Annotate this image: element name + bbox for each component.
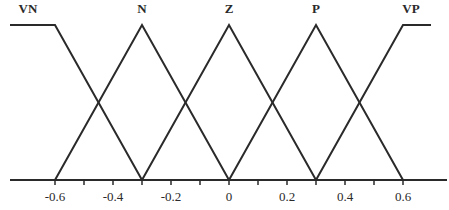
x-tick-label: 0.2 bbox=[279, 189, 295, 204]
x-tick-label: -0.6 bbox=[45, 189, 66, 204]
x-tick-label: 0 bbox=[226, 189, 233, 204]
series-vp-line bbox=[316, 25, 431, 180]
x-tick-label: 0.4 bbox=[337, 189, 354, 204]
membership-series bbox=[10, 25, 431, 180]
x-tick-label: -0.4 bbox=[103, 189, 124, 204]
membership-function-chart: VNNZPVP -0.6-0.4-0.200.20.40.6 bbox=[0, 0, 449, 210]
x-tick-label: -0.2 bbox=[161, 189, 182, 204]
series-label-n: N bbox=[137, 1, 147, 16]
series-p-line bbox=[229, 25, 403, 180]
series-labels: VNNZPVP bbox=[19, 1, 420, 16]
x-tick-label: 0.6 bbox=[395, 189, 412, 204]
series-z-line bbox=[142, 25, 316, 180]
x-axis-tick-labels: -0.6-0.4-0.200.20.40.6 bbox=[45, 189, 412, 204]
series-label-vp: VP bbox=[402, 1, 419, 16]
series-label-vn: VN bbox=[19, 1, 38, 16]
series-label-z: Z bbox=[225, 1, 234, 16]
series-vn-line bbox=[10, 25, 142, 180]
series-n-line bbox=[55, 25, 229, 180]
series-label-p: P bbox=[312, 1, 320, 16]
